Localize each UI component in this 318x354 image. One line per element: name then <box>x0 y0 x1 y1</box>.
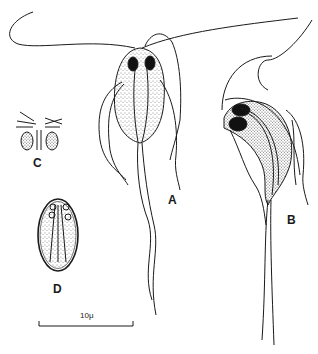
figure-c-nuclei-detail <box>16 112 62 150</box>
organism-b-trophozoite <box>222 20 312 345</box>
figure-illustration <box>0 0 318 354</box>
label-c: C <box>33 156 42 170</box>
figure-d-cyst <box>38 199 78 271</box>
label-b: B <box>287 213 296 227</box>
label-a: A <box>168 193 177 207</box>
scale-bar-label: 10μ <box>80 311 94 320</box>
scale-bar <box>39 321 133 326</box>
label-d: D <box>53 282 62 296</box>
